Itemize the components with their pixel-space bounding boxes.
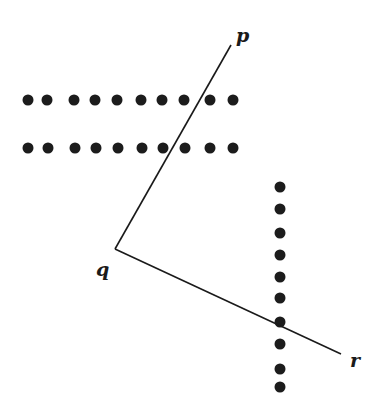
label-group: q p r bbox=[96, 24, 362, 371]
dot-row-2-3 bbox=[70, 143, 81, 154]
dot-group bbox=[23, 95, 286, 393]
dot-row-2-4 bbox=[91, 143, 102, 154]
angle-dot-diagram: q p r bbox=[0, 0, 383, 406]
dot-row-1-10 bbox=[228, 95, 239, 106]
diagram-svg: q p r bbox=[0, 0, 383, 406]
dot-column-1-8 bbox=[275, 339, 286, 350]
dot-column-1-6 bbox=[275, 293, 286, 304]
dot-row-2-8 bbox=[180, 143, 191, 154]
ray-label-p: p bbox=[236, 24, 250, 46]
dot-row-1-3 bbox=[69, 95, 80, 106]
dot-row-1-9 bbox=[205, 95, 216, 106]
dot-row-1-2 bbox=[42, 95, 53, 106]
dot-row-1-6 bbox=[136, 95, 147, 106]
dot-column-1-2 bbox=[275, 204, 286, 215]
dot-row-2-9 bbox=[205, 143, 216, 154]
dot-row-2-1 bbox=[23, 143, 34, 154]
dot-row-2-2 bbox=[43, 143, 54, 154]
dot-row-2-6 bbox=[137, 143, 148, 154]
ray-label-r: r bbox=[350, 349, 362, 371]
ray-r bbox=[115, 249, 341, 354]
dot-row-1-1 bbox=[23, 95, 34, 106]
dot-column-1-10 bbox=[275, 382, 286, 393]
ray-group bbox=[115, 45, 341, 354]
dot-row-1-7 bbox=[157, 95, 168, 106]
dot-column-1-3 bbox=[275, 228, 286, 239]
dot-row-1-5 bbox=[112, 95, 123, 106]
dot-row-2-7 bbox=[158, 143, 169, 154]
dot-column-1-5 bbox=[275, 272, 286, 283]
vertex-label-q: q bbox=[96, 258, 109, 280]
dot-column-1-9 bbox=[275, 364, 286, 375]
dot-row-1-8 bbox=[179, 95, 190, 106]
dot-column-1-4 bbox=[275, 250, 286, 261]
dot-row-2-5 bbox=[113, 143, 124, 154]
dot-row-1-4 bbox=[90, 95, 101, 106]
dot-column-1-1 bbox=[275, 182, 286, 193]
dot-row-2-10 bbox=[228, 143, 239, 154]
